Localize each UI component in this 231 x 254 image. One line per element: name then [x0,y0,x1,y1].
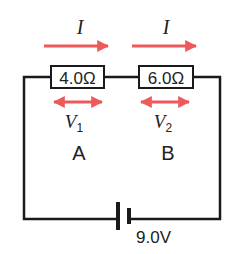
current-arrow-a: I [44,16,108,46]
circuit-wires [24,77,220,219]
resistor-b: 6.0Ω [139,66,193,88]
resistor-a-value: 4.0Ω [59,69,95,88]
resistor-b-value: 6.0Ω [148,69,184,88]
svg-text:V2: V2 [154,111,173,135]
series-circuit-diagram: 4.0Ω 6.0Ω I I V1 V2 A B 9.0V [0,0,231,254]
current-label-b: I [162,16,171,38]
voltage-subscript-b: 2 [165,121,172,135]
resistor-a: 4.0Ω [51,66,104,88]
current-arrow-b: I [132,16,196,46]
resistor-b-label: B [161,142,174,164]
battery-icon [118,202,129,230]
voltage-arrow-b: V2 [141,102,189,135]
battery-voltage: 9.0V [136,228,172,247]
voltage-subscript-a: 1 [76,121,83,135]
current-label-a: I [76,16,85,38]
voltage-arrow-a: V1 [54,102,102,135]
resistor-a-label: A [72,142,86,164]
svg-text:V1: V1 [65,111,84,135]
